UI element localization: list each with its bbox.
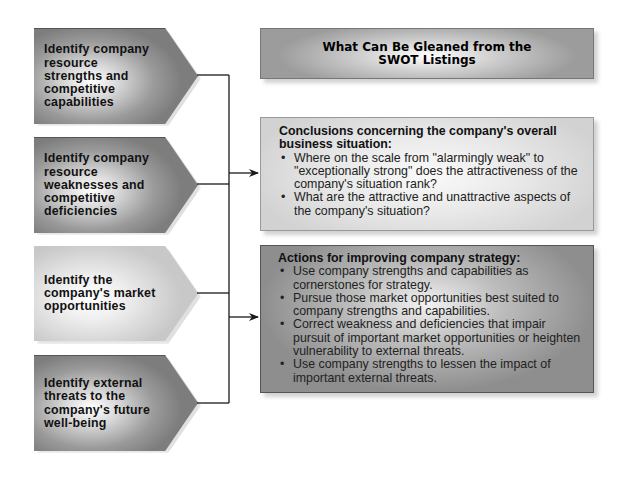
actions-list: Use company strengths and capabilities a… (278, 265, 583, 385)
actions-box: Actions for improving company strategy: … (260, 245, 594, 393)
list-item: Pursue those market opportunities best s… (278, 292, 583, 319)
diagram-title: What Can Be Gleaned from the SWOT Listin… (312, 41, 542, 67)
list-item: Use company strengths and capabilities a… (278, 265, 583, 292)
list-item: Where on the scale from "alarmingly weak… (279, 152, 583, 192)
list-item: Use company strengths to lessen the impa… (278, 358, 583, 385)
list-item: What are the attractive and unattractive… (279, 191, 583, 218)
actions-heading: Actions for improving company strategy: (278, 252, 583, 265)
conclusions-list: Where on the scale from "alarmingly weak… (279, 152, 583, 218)
conclusions-box: Conclusions concerning the company's ove… (260, 117, 594, 231)
title-box: What Can Be Gleaned from the SWOT Listin… (260, 28, 594, 79)
list-item: Correct weakness and deficiencies that i… (278, 318, 583, 358)
conclusions-heading: Conclusions concerning the company's ove… (279, 125, 583, 152)
